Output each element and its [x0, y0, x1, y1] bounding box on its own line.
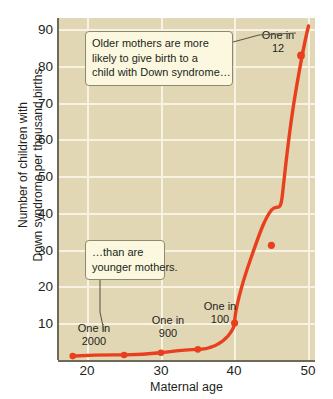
point-label-line-2: 100 [192, 313, 248, 326]
y-axis-title-line-1: Number of children with [16, 40, 31, 290]
point-label-line-1: One in [252, 29, 304, 42]
x-axis-title: Maternal age [58, 381, 315, 394]
y-axis-title-line-2: Down syndrome per thousand births [31, 40, 46, 290]
point-label-line-2: 12 [252, 42, 304, 55]
callout-line-1: Older mothers are more [92, 36, 226, 51]
point-label-one-in-900: One in 900 [140, 314, 196, 340]
callout-line-3: child with Down syndrome… [92, 65, 226, 80]
point-label-line-2: 900 [140, 327, 196, 340]
callout-line-2: likely to give birth to a [92, 51, 226, 66]
x-tick-label-40: 40 [214, 364, 254, 378]
callout-older-mothers: Older mothers are more likely to give bi… [85, 31, 233, 86]
point-label-one-in-100: One in 100 [192, 300, 248, 326]
x-axis-line [58, 360, 315, 362]
y-axis-title: Number of children with Down syndrome pe… [16, 40, 46, 290]
x-tick-label-50: 50 [288, 364, 328, 378]
point-label-line-1: One in [62, 322, 126, 335]
point-label-one-in-2000: One in 2000 [62, 322, 126, 348]
point-label-line-2: 2000 [62, 335, 126, 348]
callout-younger-mothers: …than are younger mothers. [85, 240, 165, 280]
y-tick-label-10: 10 [26, 317, 53, 330]
callout-line-1: …than are [92, 245, 158, 260]
point-label-line-1: One in [140, 314, 196, 327]
point-label-line-1: One in [192, 300, 248, 313]
callout-line-2: younger mothers. [92, 260, 158, 275]
x-tick-label-30: 30 [141, 364, 181, 378]
x-tick-label-20: 20 [67, 364, 107, 378]
point-label-one-in-12: One in 12 [252, 29, 304, 55]
y-axis-line [57, 18, 59, 360]
y-tick-label-90: 90 [26, 23, 53, 36]
chart-figure: One in 2000 One in 900 One in 100 One in… [0, 0, 333, 399]
